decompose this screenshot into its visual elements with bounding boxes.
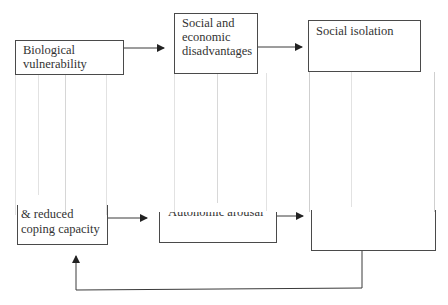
connector-arrows <box>0 0 448 305</box>
feedback-loop-arrow <box>76 251 362 290</box>
